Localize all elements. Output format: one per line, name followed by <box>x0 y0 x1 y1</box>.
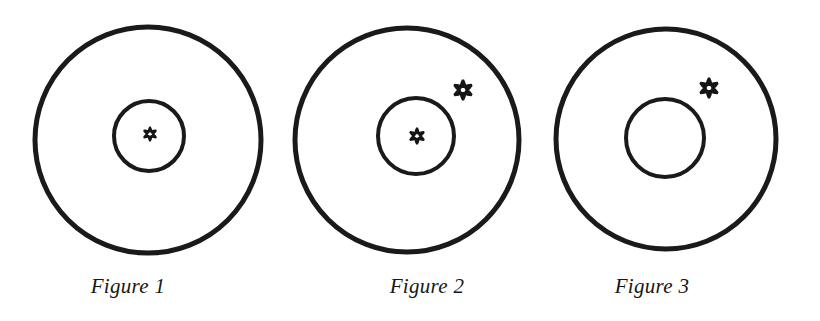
figure-2-asterisk-annulus <box>453 80 472 101</box>
figure-3-asterisk-annulus <box>699 78 718 99</box>
figure-2-caption: Figure 2 <box>327 276 527 297</box>
figure-1 <box>35 27 261 253</box>
figure-2 <box>295 28 519 252</box>
figure-1-asterisk-inner <box>143 127 157 142</box>
figure-1-caption: Figure 1 <box>28 276 228 297</box>
figure-plate: Figure 1 Figure 2 Figure 3 <box>0 0 820 321</box>
figure-3 <box>556 29 776 249</box>
figure-2-inner-circle <box>378 98 454 174</box>
figure-1-outer-circle <box>35 27 261 253</box>
figure-plate-canvas <box>0 0 820 321</box>
figure-2-outer-circle <box>295 28 519 252</box>
figure-3-outer-circle <box>556 29 776 249</box>
figure-3-inner-circle <box>626 99 704 177</box>
figure-3-caption: Figure 3 <box>552 276 752 297</box>
figure-2-asterisk-inner <box>409 128 425 145</box>
